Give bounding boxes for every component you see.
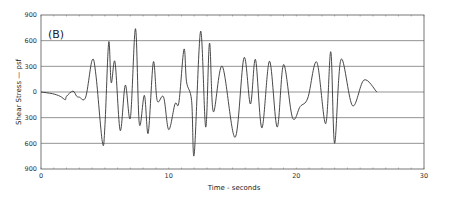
x-tick-label: 0 xyxy=(39,172,43,180)
panel-label: (B) xyxy=(48,28,64,41)
x-axis-ticks: 0102030 xyxy=(39,172,428,180)
shear-stress-chart: 9006003000300600900 0102030 (B) Time - s… xyxy=(0,0,450,205)
x-tick-label: 10 xyxy=(165,172,173,180)
y-axis-ticks: 9006003000300600900 xyxy=(25,11,37,173)
gridlines xyxy=(41,15,424,169)
shear-stress-series xyxy=(41,29,377,156)
y-tick-label: 900 xyxy=(25,165,37,173)
x-tick-label: 20 xyxy=(292,172,300,180)
y-tick-label: 600 xyxy=(25,37,37,45)
y-tick-label: 0 xyxy=(33,88,37,96)
y-tick-label: 600 xyxy=(25,140,37,148)
y-tick-label: 300 xyxy=(25,63,37,71)
y-tick-label: 300 xyxy=(25,114,37,122)
x-axis-label: Time - seconds xyxy=(207,184,261,192)
x-tick-label: 30 xyxy=(420,172,428,180)
y-axis-label: Shear Stress — psf xyxy=(15,58,23,125)
y-tick-label: 900 xyxy=(25,11,37,19)
